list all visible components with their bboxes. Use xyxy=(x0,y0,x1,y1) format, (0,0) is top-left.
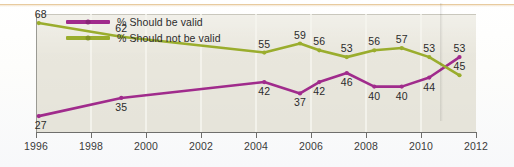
value-label: 57 xyxy=(396,33,408,45)
data-point xyxy=(298,91,302,95)
x-tick-label-2012: 2012 xyxy=(464,140,488,152)
data-point xyxy=(427,75,431,79)
value-label: 62 xyxy=(115,22,127,34)
value-label: 44 xyxy=(423,81,435,93)
x-tick-label-1996: 1996 xyxy=(24,140,48,152)
legend-label-should-not-be-valid: % Should not be valid xyxy=(117,32,221,44)
value-label: 56 xyxy=(313,35,325,47)
x-tick-2002 xyxy=(201,133,202,138)
x-tick-2004 xyxy=(256,133,257,138)
value-label: 55 xyxy=(258,38,270,50)
value-label: 56 xyxy=(368,35,380,47)
data-point xyxy=(317,80,321,84)
series-line-0 xyxy=(39,57,460,116)
data-point xyxy=(372,85,376,89)
data-point xyxy=(37,114,41,118)
data-point xyxy=(262,80,266,84)
legend-item-should-not-be-valid: % Should not be valid xyxy=(66,32,221,44)
x-tick-label-2010: 2010 xyxy=(409,140,433,152)
value-label: 59 xyxy=(294,29,306,41)
value-label: 53 xyxy=(454,42,466,54)
x-tick-label-2000: 2000 xyxy=(134,140,158,152)
plot-frame-shadow xyxy=(440,3,443,121)
x-tick-2006 xyxy=(311,133,312,138)
value-label: 53 xyxy=(341,42,353,54)
data-point xyxy=(427,55,431,59)
data-point xyxy=(317,48,321,52)
x-tick-2010 xyxy=(421,133,422,138)
legend-swatch-purple xyxy=(66,20,110,24)
value-label: 40 xyxy=(368,90,380,102)
data-point xyxy=(457,73,461,77)
chart-legend: % Should be valid % Should not be valid xyxy=(66,16,221,44)
data-point xyxy=(298,41,302,45)
value-label: 46 xyxy=(341,76,353,88)
value-label: 42 xyxy=(258,85,270,97)
value-label: 53 xyxy=(423,42,435,54)
x-tick-label-2004: 2004 xyxy=(244,140,268,152)
data-point xyxy=(400,46,404,50)
data-point xyxy=(345,55,349,59)
x-tick-label-2002: 2002 xyxy=(189,140,213,152)
page-top-rule-shadow xyxy=(0,5,514,7)
x-tick-2008 xyxy=(366,133,367,138)
x-tick-label-2006: 2006 xyxy=(299,140,323,152)
value-label: 42 xyxy=(313,85,325,97)
value-label: 45 xyxy=(454,60,466,72)
legend-label-should-be-valid: % Should be valid xyxy=(117,16,203,28)
data-point xyxy=(262,50,266,54)
x-tick-2012 xyxy=(476,133,477,138)
value-label: 37 xyxy=(294,96,306,108)
data-point xyxy=(345,71,349,75)
data-point xyxy=(372,48,376,52)
x-tick-label-1998: 1998 xyxy=(79,140,103,152)
value-label: 27 xyxy=(35,119,47,131)
x-tick-label-2008: 2008 xyxy=(354,140,378,152)
x-tick-1996 xyxy=(36,133,37,138)
data-point xyxy=(37,21,41,25)
legend-item-should-be-valid: % Should be valid xyxy=(66,16,221,28)
data-point xyxy=(119,96,123,100)
data-point xyxy=(457,55,461,59)
value-label: 40 xyxy=(396,90,408,102)
value-label: 68 xyxy=(35,8,47,20)
data-point xyxy=(400,85,404,89)
x-tick-1998 xyxy=(91,133,92,138)
value-label: 35 xyxy=(115,101,127,113)
x-tick-2000 xyxy=(146,133,147,138)
legend-swatch-green xyxy=(66,36,110,40)
